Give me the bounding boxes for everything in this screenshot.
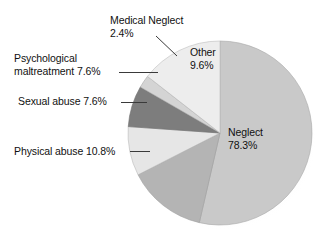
label-physical-abuse: Physical abuse 10.8% (14, 145, 115, 158)
label-medical-neglect: Medical Neglect 2.4% (110, 14, 183, 39)
label-other: Other 9.6% (190, 46, 216, 71)
leader-line-medical-neglect (156, 36, 177, 56)
label-psychological-maltreatment: Psychological maltreatment 7.6% (14, 52, 100, 77)
pie-chart-figure: Medical Neglect 2.4% Psychological maltr… (0, 0, 330, 243)
label-sexual-abuse: Sexual abuse 7.6% (18, 95, 107, 108)
label-neglect: Neglect 78.3% (228, 126, 263, 151)
